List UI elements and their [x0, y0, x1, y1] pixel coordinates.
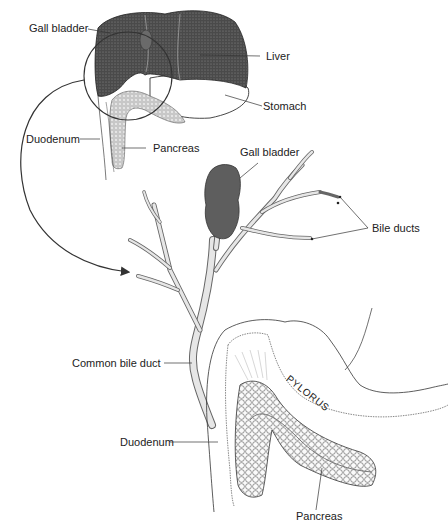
overview-inset: [84, 11, 249, 180]
duodenum-pylorus: [207, 308, 448, 512]
gallbladder-shape: [205, 165, 241, 239]
label-gall-bladder: Gall bladder: [240, 146, 299, 158]
label-inset-duodenum: Duodenum: [26, 133, 80, 145]
label-inset-pancreas: Pancreas: [153, 142, 199, 154]
label-duodenum: Duodenum: [120, 436, 174, 448]
inset-gallbladder-shape: [140, 30, 152, 50]
label-bile-ducts: Bile ducts: [372, 222, 420, 234]
label-stomach: Stomach: [263, 100, 306, 112]
label-liver: Liver: [266, 50, 290, 62]
label-common-bile-duct: Common bile duct: [72, 357, 161, 369]
anatomy-illustration: [0, 0, 448, 522]
label-pancreas: Pancreas: [296, 510, 342, 522]
label-inset-gall-bladder: Gall bladder: [29, 22, 88, 34]
